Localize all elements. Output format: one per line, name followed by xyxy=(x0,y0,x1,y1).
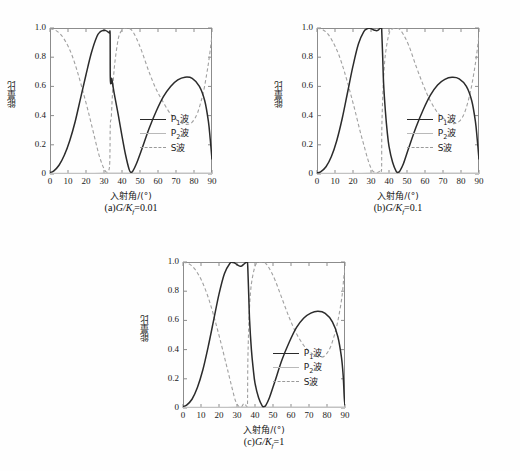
x-tick-label: 90 xyxy=(335,410,355,420)
x-tick-label: 20 xyxy=(76,176,96,186)
x-tick-label: 40 xyxy=(245,410,265,420)
y-tick-label: 0.4 xyxy=(20,110,46,120)
y-tick-label: 1.0 xyxy=(153,256,179,266)
y-tick-label: 0.2 xyxy=(287,139,313,149)
x-tick-label: 70 xyxy=(433,176,453,186)
y-tick-label: 0.6 xyxy=(20,80,46,90)
x-tick-label: 70 xyxy=(166,176,186,186)
legend-item: P1波 xyxy=(273,347,323,361)
legend-item: P1波 xyxy=(407,113,457,127)
figure-container: 00.20.40.60.81.00102030405060708090能量比入射… xyxy=(0,0,520,471)
y-tick-label: 0.4 xyxy=(153,344,179,354)
x-tick-label: 40 xyxy=(379,176,399,186)
x-tick-label: 70 xyxy=(299,410,319,420)
caption-var: G/K xyxy=(255,436,272,447)
x-tick-label: 80 xyxy=(317,410,337,420)
x-tick-label: 80 xyxy=(451,176,471,186)
legend-swatch-icon xyxy=(407,119,433,120)
y-tick-label: 1.0 xyxy=(20,22,46,32)
x-tick-label: 50 xyxy=(397,176,417,186)
x-tick-label: 60 xyxy=(415,176,435,186)
x-tick-label: 80 xyxy=(184,176,204,186)
caption-value: =0.1 xyxy=(404,202,422,213)
x-tick-label: 30 xyxy=(227,410,247,420)
legend-swatch-icon xyxy=(407,133,433,134)
x-tick-label: 60 xyxy=(148,176,168,186)
legend-item: P1波 xyxy=(140,113,190,127)
legend-b: P1波P2波S波 xyxy=(407,113,457,155)
y-tick-label: 1.0 xyxy=(287,22,313,32)
x-tick-label: 60 xyxy=(281,410,301,420)
y-tick-label: 0.6 xyxy=(287,80,313,90)
legend-swatch-icon xyxy=(140,133,166,134)
y-tick-label: 0.6 xyxy=(153,314,179,324)
x-tick-label: 0 xyxy=(307,176,327,186)
x-tick-label: 0 xyxy=(40,176,60,186)
legend-swatch-icon xyxy=(273,381,299,382)
y-tick-label: 0.8 xyxy=(20,51,46,61)
legend-label: P1波 xyxy=(304,346,323,361)
caption-prefix: (a) xyxy=(105,202,116,213)
legend-label: P1波 xyxy=(438,112,457,127)
legend-swatch-icon xyxy=(140,147,166,148)
caption-value: =0.01 xyxy=(134,202,157,213)
x-tick-label: 90 xyxy=(469,176,489,186)
legend-item: P2波 xyxy=(407,127,457,141)
x-tick-label: 10 xyxy=(58,176,78,186)
legend-label: P2波 xyxy=(438,126,457,141)
caption-value: =1 xyxy=(274,436,285,447)
legend-item: S波 xyxy=(407,141,457,155)
x-tick-label: 10 xyxy=(191,410,211,420)
y-tick-label: 0.4 xyxy=(287,110,313,120)
legend-swatch-icon xyxy=(407,147,433,148)
caption-prefix: (b) xyxy=(374,202,386,213)
x-tick-label: 90 xyxy=(202,176,222,186)
y-axis-label: 能量比 xyxy=(4,81,17,108)
y-tick-label: 0.8 xyxy=(153,285,179,295)
x-axis-label: 入射角/(°) xyxy=(183,423,345,436)
legend-item: S波 xyxy=(273,375,323,389)
x-tick-label: 20 xyxy=(209,410,229,420)
legend-item: P2波 xyxy=(140,127,190,141)
x-tick-label: 20 xyxy=(343,176,363,186)
y-tick-label: 0.2 xyxy=(20,139,46,149)
legend-item: P2波 xyxy=(273,361,323,375)
caption-prefix: (c) xyxy=(244,436,255,447)
x-axis-label: 入射角/(°) xyxy=(317,189,479,202)
x-tick-label: 0 xyxy=(173,410,193,420)
legend-swatch-icon xyxy=(273,353,299,354)
y-tick-label: 0.2 xyxy=(153,373,179,383)
legend-label: S波 xyxy=(171,141,186,154)
panel-caption-a: (a)G/Kf=0.01 xyxy=(30,202,232,216)
x-tick-label: 10 xyxy=(325,176,345,186)
legend-label: P1波 xyxy=(171,112,190,127)
y-tick-label: 0.8 xyxy=(287,51,313,61)
legend-label: S波 xyxy=(304,375,319,388)
x-tick-label: 30 xyxy=(361,176,381,186)
caption-var: G/K xyxy=(116,202,133,213)
legend-label: P2波 xyxy=(171,126,190,141)
x-tick-label: 50 xyxy=(263,410,283,420)
legend-swatch-icon xyxy=(273,367,299,368)
y-axis-label: 能量比 xyxy=(137,315,150,342)
legend-c: P1波P2波S波 xyxy=(273,347,323,389)
x-tick-label: 40 xyxy=(112,176,132,186)
x-tick-label: 50 xyxy=(130,176,150,186)
panel-caption-b: (b)G/Kf=0.1 xyxy=(297,202,499,216)
legend-a: P1波P2波S波 xyxy=(140,113,190,155)
x-tick-label: 30 xyxy=(94,176,114,186)
legend-label: S波 xyxy=(438,141,453,154)
x-axis-label: 入射角/(°) xyxy=(50,189,212,202)
y-axis-label: 能量比 xyxy=(271,81,284,108)
legend-swatch-icon xyxy=(140,119,166,120)
caption-var: G/K xyxy=(385,202,402,213)
panel-caption-c: (c)G/Kf=1 xyxy=(163,436,365,450)
legend-label: P2波 xyxy=(304,360,323,375)
legend-item: S波 xyxy=(140,141,190,155)
